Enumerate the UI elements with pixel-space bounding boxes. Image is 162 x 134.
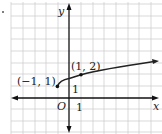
x-axis-label: x (153, 101, 159, 112)
origin-label: O (57, 101, 66, 112)
y-tick-label: 1 (72, 84, 79, 95)
point-label-1-2: (1, 2) (71, 61, 101, 72)
point-start (56, 85, 60, 89)
x-axis (11, 96, 159, 101)
x-tick-label: 1 (76, 102, 83, 113)
point-1-2 (79, 73, 83, 77)
y-axis-label: y (58, 6, 64, 17)
point-label-start: (−1, 1) (17, 76, 56, 87)
